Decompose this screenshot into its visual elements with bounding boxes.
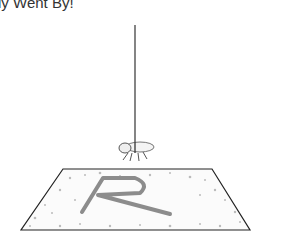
fly-icon	[119, 142, 154, 161]
illustration	[0, 0, 285, 238]
landing-mat	[21, 169, 250, 230]
